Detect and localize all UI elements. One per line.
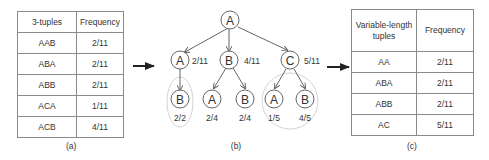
node-frequency: 2/4 <box>206 113 218 123</box>
tree-node-level1: B 4/11 <box>220 51 260 69</box>
frequency-cell: 2/11 <box>417 94 474 115</box>
table-row: ABA 2/11 <box>352 73 474 94</box>
tree-node-level2: B 2/2 <box>171 90 189 123</box>
svg-text:A: A <box>176 54 184 68</box>
svg-text:A: A <box>270 93 278 107</box>
header-line: tuples <box>373 31 396 41</box>
node-frequency: 1/5 <box>268 113 280 123</box>
tuple-cell: ABB <box>352 94 417 115</box>
variable-length-tuples-table: Variable-length tuples Frequency AA 2/11… <box>351 9 474 136</box>
tree-node-level1: A 2/11 <box>171 51 208 69</box>
svg-text:B: B <box>225 54 233 68</box>
svg-text:B: B <box>241 93 249 107</box>
caption-c: (c) <box>407 141 417 151</box>
table-row: AC 5/11 <box>352 115 474 136</box>
header-frequency: Frequency <box>417 10 474 52</box>
tree-node-level2: B 2/4 <box>236 90 254 123</box>
table-header-row: Variable-length tuples Frequency <box>352 10 474 52</box>
node-frequency: 5/11 <box>304 56 320 66</box>
node-frequency: 4/5 <box>299 113 311 123</box>
frequency-cell: 2/11 <box>417 73 474 94</box>
svg-text:C: C <box>286 54 295 68</box>
svg-text:B: B <box>176 93 184 107</box>
tree-node-level2: A 1/5 <box>265 90 283 123</box>
tree-node-root: A <box>221 11 239 29</box>
svg-text:B: B <box>301 93 309 107</box>
tuple-cell: ABA <box>352 73 417 94</box>
frequency-cell: 5/11 <box>417 115 474 136</box>
svg-text:A: A <box>208 93 216 107</box>
caption-b: (b) <box>231 141 242 151</box>
frequency-cell: 2/11 <box>417 52 474 73</box>
node-frequency: 2/4 <box>239 113 251 123</box>
svg-text:A: A <box>226 14 234 28</box>
node-frequency: 4/11 <box>244 56 260 66</box>
tree-node-level2: A 2/4 <box>203 90 221 123</box>
header-tuples: Variable-length tuples <box>352 10 417 52</box>
node-frequency: 2/2 <box>174 113 186 123</box>
table-row: AA 2/11 <box>352 52 474 73</box>
tree-node-level1: C 5/11 <box>281 51 320 69</box>
table-row: ABB 2/11 <box>352 94 474 115</box>
tree-node-level2: B 4/5 <box>296 90 314 123</box>
header-line: Variable-length <box>356 20 413 30</box>
node-frequency: 2/11 <box>192 56 208 66</box>
tuple-cell: AC <box>352 115 417 136</box>
tuple-cell: AA <box>352 52 417 73</box>
